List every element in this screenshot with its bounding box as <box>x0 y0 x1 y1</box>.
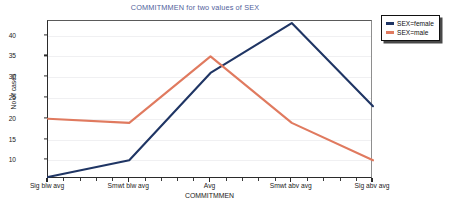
series-line-sexfemale <box>48 23 373 177</box>
x-tick-label: Sig abv avg <box>355 182 390 189</box>
x-minor-tick <box>193 178 194 181</box>
chart-figure: COMMITMMEN for two values of SEX No of c… <box>0 0 468 207</box>
series-lines <box>48 21 373 179</box>
x-tick-label: Smwt abv avg <box>270 182 312 189</box>
x-minor-tick <box>96 178 97 181</box>
y-tick-label: 30 <box>9 73 16 80</box>
x-minor-tick <box>63 178 64 181</box>
x-tick-label: Avg <box>204 182 215 189</box>
y-tick-label: 15 <box>9 135 16 142</box>
x-tick-label: Sig blw avg <box>30 182 64 189</box>
legend[interactable]: SEX=female SEX=male <box>381 15 440 41</box>
x-minor-tick <box>258 178 259 181</box>
x-minor-tick <box>340 178 341 181</box>
plot-area <box>47 20 372 178</box>
x-minor-tick <box>242 178 243 181</box>
legend-swatch-female <box>386 22 394 24</box>
legend-item-female[interactable]: SEX=female <box>386 19 434 28</box>
x-axis-title: COMMITMMEN <box>47 192 372 199</box>
y-tick-label: 20 <box>9 114 16 121</box>
x-minor-tick <box>307 178 308 181</box>
x-minor-tick <box>226 178 227 181</box>
x-minor-tick <box>323 178 324 181</box>
x-minor-tick <box>80 178 81 181</box>
x-minor-tick <box>112 178 113 181</box>
x-minor-tick <box>275 178 276 181</box>
x-minor-tick <box>356 178 357 181</box>
y-tick-label: 35 <box>9 52 16 59</box>
x-tick-label: Smwt blw avg <box>108 182 149 189</box>
chart-title: COMMITMMEN for two values of SEX <box>0 3 390 12</box>
legend-label-male: SEX=male <box>397 28 428 37</box>
legend-item-male[interactable]: SEX=male <box>386 28 434 37</box>
y-tick-label: 10 <box>9 156 16 163</box>
y-axis: No of cases 10152025303540 <box>0 0 47 207</box>
x-minor-tick <box>145 178 146 181</box>
x-minor-tick <box>177 178 178 181</box>
y-tick-label: 40 <box>9 31 16 38</box>
legend-swatch-male <box>386 31 394 33</box>
legend-label-female: SEX=female <box>397 19 434 28</box>
y-tick-label: 25 <box>9 93 16 100</box>
x-minor-tick <box>161 178 162 181</box>
